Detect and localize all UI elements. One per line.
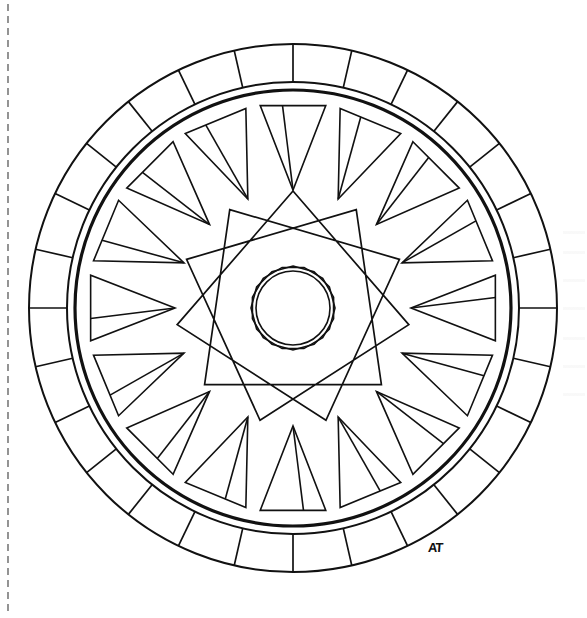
- mandala-artwork: [0, 0, 587, 618]
- artist-signature: AT: [427, 540, 442, 555]
- coloring-page-canvas: AT: [0, 0, 587, 618]
